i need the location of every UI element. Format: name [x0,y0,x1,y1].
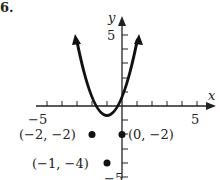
curve-arrow-left-icon [72,34,81,45]
y-axis-label: y [107,10,116,25]
x-max-label: 5 [191,112,199,127]
x-axis-label: x [208,88,216,103]
parabola-graph: 6. x y −5 5 5 −5 (− [0,0,220,180]
problem-number: 6. [0,0,14,15]
point-vertex [104,160,111,167]
point-left [89,131,96,138]
y-max-label: 5 [107,28,115,43]
point-left-label: (−2, −2) [19,127,76,142]
point-right [119,131,126,138]
point-right-label: (0, −2) [128,127,174,142]
x-axis-arrow-icon [206,102,216,110]
curve-arrow-right-icon [134,34,143,45]
point-vertex-label: (−1, −4) [32,156,89,171]
y-min-label: −5 [104,171,123,180]
x-min-label: −5 [28,112,47,127]
y-axis-arrow-icon [118,16,126,26]
